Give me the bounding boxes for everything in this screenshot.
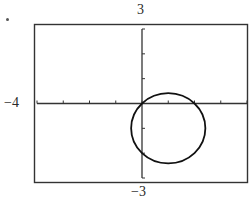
y-min-label: −3 [131,185,146,199]
graph-window [0,0,250,200]
x-min-label: −4 [4,96,19,110]
y-max-label: 3 [137,3,144,17]
